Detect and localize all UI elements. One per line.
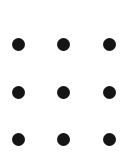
dot-r3-c2 (57, 133, 70, 146)
dot-r1-c3 (103, 38, 116, 51)
dot-r1-c2 (57, 38, 70, 51)
dot-r2-c1 (12, 86, 25, 99)
dot-r2-c3 (103, 86, 116, 99)
dot-r2-c2 (57, 86, 70, 99)
dot-r1-c1 (12, 38, 25, 51)
dot-r3-c1 (12, 133, 25, 146)
dot-r3-c3 (103, 133, 116, 146)
dot-grid-canvas (0, 0, 136, 158)
